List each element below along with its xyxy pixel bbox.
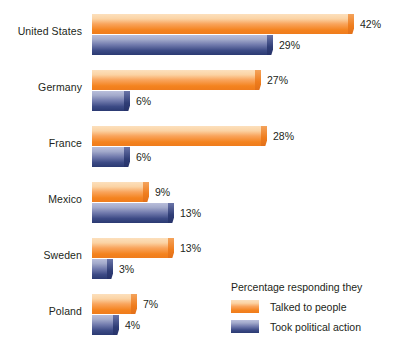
bar-body xyxy=(92,14,348,34)
legend-swatch-blue xyxy=(231,320,259,333)
category-label: Sweden xyxy=(0,249,82,261)
bar-value-label: 28% xyxy=(273,130,294,142)
bar-value-label: 42% xyxy=(360,18,381,30)
bar-bevel-cap xyxy=(168,238,174,258)
bar-value-label: 9% xyxy=(155,186,170,198)
bar-group: Mexico 9% 13% xyxy=(0,182,398,224)
bar-group: United States 42% 29% xyxy=(0,14,398,56)
bar-body xyxy=(92,147,124,167)
bar-value-label: 13% xyxy=(180,207,201,219)
bar-bevel-cap xyxy=(143,182,149,202)
bar-bevel-cap xyxy=(107,259,113,279)
category-label: United States xyxy=(0,25,82,37)
bar-talked-to-people xyxy=(92,126,267,146)
bar-talked-to-people xyxy=(92,182,149,202)
bar-body xyxy=(92,35,267,55)
category-label: Germany xyxy=(0,81,82,93)
bar-took-political-action xyxy=(92,147,130,167)
bar-bevel-cap xyxy=(255,70,261,90)
legend-swatch-orange xyxy=(231,300,259,313)
bar-value-label: 3% xyxy=(119,263,134,275)
bar-value-label: 6% xyxy=(136,95,151,107)
bar-talked-to-people xyxy=(92,14,354,34)
bar-bevel-cap xyxy=(124,91,130,111)
legend-item-talked-to-people: Talked to people xyxy=(231,300,391,313)
bar-group: France 28% 6% xyxy=(0,126,398,168)
legend-title: Percentage responding they xyxy=(231,281,391,293)
bar-body xyxy=(92,182,143,202)
bar-took-political-action xyxy=(92,203,174,223)
bar-group: Germany 27% 6% xyxy=(0,70,398,112)
category-label: Mexico xyxy=(0,193,82,205)
plot-area: United States 42% 29% Germany xyxy=(0,0,398,316)
bar-bevel-cap xyxy=(131,294,137,314)
bar-body xyxy=(92,126,261,146)
bar-body xyxy=(92,238,168,258)
bar-talked-to-people xyxy=(92,294,137,314)
legend-label: Took political action xyxy=(270,321,361,333)
bar-value-label: 6% xyxy=(136,151,151,163)
bar-bevel-cap xyxy=(261,126,267,146)
bar-value-label: 4% xyxy=(125,319,140,331)
legend-item-took-political-action: Took political action xyxy=(231,320,391,333)
bar-body xyxy=(92,315,113,335)
bar-chart: United States 42% 29% Germany xyxy=(0,0,398,358)
bar-bevel-cap xyxy=(267,35,273,55)
category-label: Poland xyxy=(0,305,82,317)
bar-bevel-cap xyxy=(113,315,119,335)
category-label: France xyxy=(0,137,82,149)
bar-body xyxy=(92,294,131,314)
bar-talked-to-people xyxy=(92,238,174,258)
bar-took-political-action xyxy=(92,91,130,111)
bar-group: Sweden 13% 3% xyxy=(0,238,398,280)
bar-bevel-cap xyxy=(124,147,130,167)
bar-bevel-cap xyxy=(348,14,354,34)
bar-talked-to-people xyxy=(92,70,261,90)
bar-took-political-action xyxy=(92,315,119,335)
bar-value-label: 13% xyxy=(180,242,201,254)
bar-body xyxy=(92,203,168,223)
chart-legend: Percentage responding they Talked to peo… xyxy=(231,281,391,340)
bar-value-label: 29% xyxy=(279,39,300,51)
bar-body xyxy=(92,259,107,279)
bar-body xyxy=(92,91,124,111)
bar-took-political-action xyxy=(92,259,113,279)
bar-took-political-action xyxy=(92,35,273,55)
legend-label: Talked to people xyxy=(270,301,346,313)
bar-body xyxy=(92,70,255,90)
bar-bevel-cap xyxy=(168,203,174,223)
bar-value-label: 27% xyxy=(267,74,288,86)
bar-value-label: 7% xyxy=(143,298,158,310)
